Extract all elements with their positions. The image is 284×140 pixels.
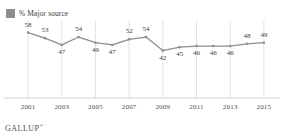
data-point-marker [94, 41, 97, 44]
data-point-label: 48 [244, 32, 251, 40]
data-point-marker [60, 44, 63, 47]
x-tick-label: 2007 [122, 103, 137, 111]
data-point-marker [178, 46, 181, 49]
data-point-label: 45 [176, 50, 183, 58]
data-point-label: 46 [193, 49, 200, 57]
data-point-label: 47 [58, 48, 65, 56]
chart-legend: % Major source [6, 8, 68, 19]
data-point-marker [145, 36, 148, 39]
data-point-marker [263, 41, 266, 44]
plot-area: 585347544947525442454646464849 [0, 20, 284, 102]
data-point-marker [212, 45, 215, 48]
data-point-label: 46 [210, 49, 217, 57]
data-point-marker [195, 45, 198, 48]
data-point-marker [246, 43, 249, 46]
x-axis-tick-labels: 20012003200520072009201120132015 [0, 103, 284, 117]
legend-swatch-icon [6, 9, 15, 18]
x-tick-label: 2005 [88, 103, 103, 111]
data-point-label: 54 [143, 25, 150, 33]
data-point-marker [27, 31, 30, 34]
data-point-marker [77, 36, 80, 39]
data-point-label: 53 [41, 26, 48, 34]
gallup-line-chart: % Major source 5853475449475254424546464… [0, 0, 284, 140]
data-point-marker [229, 45, 232, 48]
x-tick-label: 2013 [223, 103, 238, 111]
x-tick-label: 2015 [256, 103, 271, 111]
source-name: GALLUP [5, 124, 40, 133]
data-point-marker [128, 38, 131, 41]
x-tick-label: 2011 [189, 103, 204, 111]
data-point-label: 49 [92, 46, 99, 54]
legend-label: % Major source [19, 9, 68, 18]
data-point-label: 47 [109, 48, 116, 56]
data-point-marker [111, 44, 114, 47]
data-point-label: 58 [25, 21, 32, 29]
data-point-label: 42 [159, 54, 166, 62]
data-point-marker [162, 49, 165, 52]
source-attribution: GALLUP® [5, 123, 44, 133]
x-tick-label: 2003 [54, 103, 69, 111]
x-tick-label: 2009 [155, 103, 170, 111]
data-point-marker [44, 37, 47, 40]
data-point-label: 52 [126, 27, 133, 35]
x-tick-label: 2001 [21, 103, 36, 111]
data-point-label: 46 [227, 49, 234, 57]
source-trademark-icon: ® [40, 123, 44, 128]
data-point-label: 49 [260, 31, 267, 39]
data-point-label: 54 [75, 25, 82, 33]
